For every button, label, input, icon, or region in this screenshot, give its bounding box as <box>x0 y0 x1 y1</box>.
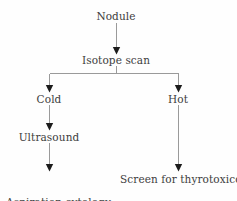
node-hot: Hot <box>168 94 188 106</box>
edge-ultrasound-to-aspiration <box>46 143 53 172</box>
node-cold: Cold <box>37 94 62 106</box>
node-aspiration-cytology-or-biopsy: Aspiration cytology or biopsy <box>6 174 111 201</box>
edge-hot-to-screen <box>175 105 182 172</box>
node-ultrasound: Ultrasound <box>19 132 80 144</box>
edge-nodule-to-isotope-scan <box>113 23 120 55</box>
node-isotope-scan: Isotope scan <box>82 55 150 67</box>
node-nodule: Nodule <box>96 11 135 23</box>
edge-bus-to-hot <box>175 74 182 93</box>
node-aspiration-line-1: Aspiration cytology <box>6 197 111 201</box>
edge-cold-to-ultrasound <box>46 105 53 131</box>
node-screen-for-thyrotoxicosis: Screen for thyrotoxicosis <box>120 174 237 186</box>
edge-bus-to-cold <box>46 74 53 93</box>
flowchart-canvas: Nodule Isotope scan Cold Hot Ultrasound … <box>0 0 237 201</box>
flowchart-connectors <box>0 0 237 201</box>
